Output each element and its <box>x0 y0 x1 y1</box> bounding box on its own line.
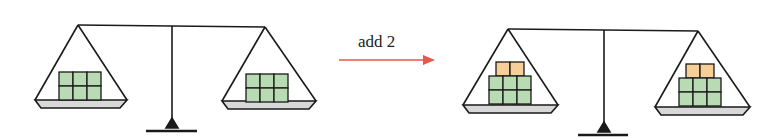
beam <box>508 29 698 31</box>
scale-before <box>35 25 316 131</box>
base-foot <box>598 122 610 132</box>
orange-blocks <box>496 62 524 76</box>
base-foot <box>166 118 178 128</box>
arrow-icon <box>339 55 435 65</box>
left-pan <box>463 29 558 113</box>
balance-diagram <box>0 0 780 140</box>
right-pan <box>222 27 316 109</box>
scale-after <box>463 29 750 135</box>
green-blocks <box>59 72 101 100</box>
orange-blocks <box>686 64 714 78</box>
right-pan <box>655 31 750 115</box>
green-blocks <box>679 78 721 106</box>
green-blocks <box>489 76 531 104</box>
green-blocks <box>246 74 288 102</box>
arrow-label: add 2 <box>358 32 395 52</box>
left-pan <box>35 25 127 108</box>
